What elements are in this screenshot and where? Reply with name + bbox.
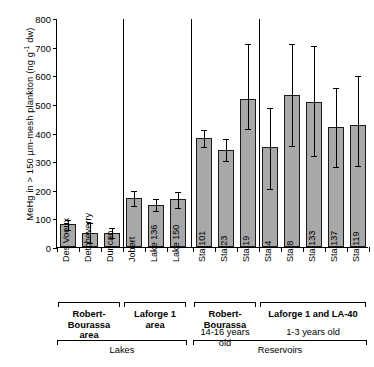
x-axis-label-detcheverry: Detcheverry — [83, 213, 93, 262]
y-axis-title-exponent: -1 — [23, 46, 30, 52]
y-axis-tick-label: 800 — [35, 14, 51, 25]
x-axis-label-sta-19: Sta 19 — [241, 236, 251, 262]
x-axis-tick — [101, 247, 102, 252]
y-axis-title-post: dw) — [24, 27, 35, 45]
y-axis-tick — [53, 19, 57, 20]
x-axis-tick — [303, 247, 304, 252]
x-axis-tick — [325, 247, 326, 252]
x-axis-label-sta-119: Sta 119 — [351, 231, 361, 262]
error-bar-cap-upper — [267, 108, 274, 109]
x-axis-tick — [237, 247, 238, 252]
error-bar-cap-lower — [267, 189, 274, 190]
x-axis-label-lake-150: Lake 150 — [171, 225, 181, 262]
error-bar-cap-lower — [245, 129, 252, 130]
x-axis-label-sta-8: Sta 8 — [285, 241, 295, 262]
error-bar-cap-upper — [311, 46, 318, 47]
y-axis-tick — [53, 191, 57, 192]
group-separator — [123, 19, 124, 248]
group-separator — [259, 19, 260, 248]
x-axis-label-sta-23: Sta 23 — [219, 236, 229, 262]
group-label-line: area — [124, 320, 186, 331]
y-axis-tick-label: 100 — [35, 214, 51, 225]
x-axis-label-sta-101: Sta 101 — [197, 231, 207, 262]
group-label-line: Robert- — [194, 309, 256, 320]
error-bar — [226, 139, 227, 161]
group-label-line: Laforge 1 — [124, 309, 186, 320]
group-label-upper: Laforge 1 and LA-40 — [260, 309, 366, 320]
group-age-label: 1-3 years old — [260, 327, 366, 338]
error-bar-cap-lower — [153, 211, 160, 212]
error-bar-cap-upper — [131, 191, 138, 192]
x-axis-label-jobert: Jobert — [127, 237, 137, 262]
error-bar — [270, 108, 271, 190]
x-axis-tick — [347, 247, 348, 252]
error-bar-cap-upper — [245, 44, 252, 45]
x-axis-tick — [193, 247, 194, 252]
bar — [218, 150, 234, 247]
group-label-upper: Robert-Bourassaarea — [58, 309, 120, 341]
x-axis-label-duncan: Duncan — [105, 231, 115, 262]
y-axis-tick — [53, 219, 57, 220]
plot-area: 0100200300400500600700800 — [56, 19, 368, 248]
group-bracket-upper — [194, 302, 256, 307]
error-bar — [336, 88, 337, 167]
x-axis-tick — [79, 247, 80, 252]
error-bar-cap-upper — [223, 139, 230, 140]
group-bracket-upper — [260, 302, 366, 307]
x-axis-label-sta-137: Sta 137 — [329, 231, 339, 262]
error-bar-cap-upper — [175, 192, 182, 193]
group-separator — [191, 19, 192, 248]
y-axis-tick-label: 0 — [46, 243, 51, 254]
error-bar-cap-lower — [311, 156, 318, 157]
y-axis-tick-label: 600 — [35, 71, 51, 82]
error-bar-cap-upper — [355, 76, 362, 77]
error-bar-cap-lower — [333, 167, 340, 168]
x-axis-tick — [281, 247, 282, 252]
error-bar-cap-lower — [175, 208, 182, 209]
error-bar-cap-lower — [131, 206, 138, 207]
error-bar — [292, 44, 293, 145]
error-bar — [314, 46, 315, 156]
y-axis-title: MeHg in > 150 µm-mesh plankton (ng g-1 d… — [23, 0, 35, 249]
group-label-lakes: Lakes — [57, 345, 187, 356]
y-axis-tick-label: 200 — [35, 185, 51, 196]
y-axis-tick — [53, 162, 57, 163]
y-axis-tick — [53, 48, 57, 49]
error-bar-cap-lower — [355, 166, 362, 167]
y-axis-tick — [53, 76, 57, 77]
group-bracket-upper — [58, 302, 120, 307]
y-axis-tick-label: 700 — [35, 42, 51, 53]
y-axis-tick-label: 400 — [35, 128, 51, 139]
x-axis-label-sta-133: Sta 133 — [307, 231, 317, 262]
error-bar-cap-lower — [223, 161, 230, 162]
group-label-line: Laforge 1 and LA-40 — [260, 309, 366, 320]
x-axis-tick — [215, 247, 216, 252]
error-bar — [134, 191, 135, 206]
error-bar-cap-upper — [109, 228, 116, 229]
error-bar-cap-upper — [153, 199, 160, 200]
group-label-upper: Laforge 1area — [124, 309, 186, 330]
x-axis-tick — [145, 247, 146, 252]
x-axis-label-lake-136: Lake 136 — [149, 225, 159, 262]
group-bracket-upper — [124, 302, 186, 307]
error-bar — [248, 44, 249, 129]
error-bar-cap-upper — [201, 130, 208, 131]
error-bar-cap-lower — [201, 147, 208, 148]
group-label-reservoirs: Reservoirs — [193, 345, 367, 356]
x-axis-tick — [369, 247, 370, 252]
error-bar-cap-upper — [289, 44, 296, 45]
y-axis-tick-label: 500 — [35, 99, 51, 110]
x-axis-label-des-voeux: Des Voeux — [61, 218, 71, 262]
y-axis-title-pre: MeHg in > 150 µm-mesh plankton (ng g — [24, 52, 35, 221]
error-bar-cap-upper — [333, 88, 340, 89]
y-axis-tick — [53, 105, 57, 106]
error-bar — [178, 192, 179, 208]
error-bar-cap-lower — [289, 146, 296, 147]
group-label-line: Robert- — [58, 309, 120, 320]
error-bar — [204, 130, 205, 147]
x-axis-tick — [167, 247, 168, 252]
x-axis-label-sta-4: Sta 4 — [263, 241, 273, 262]
group-label-line: Bourassa — [58, 320, 120, 331]
chart-figure: MeHg in > 150 µm-mesh plankton (ng g-1 d… — [0, 0, 374, 367]
error-bar — [156, 199, 157, 211]
